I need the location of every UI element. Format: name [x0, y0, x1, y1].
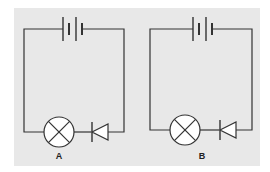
battery-icon	[193, 17, 212, 41]
circuit-a-label: A	[56, 151, 63, 161]
circuits-diagram: A B	[0, 0, 270, 172]
circuit-b-wire-right	[212, 29, 252, 130]
diode-icon	[220, 120, 236, 140]
circuit-a-wire-right	[83, 29, 124, 132]
lamp-icon	[170, 115, 200, 145]
circuit-a	[24, 17, 124, 147]
circuit-b-label: B	[199, 151, 206, 161]
diode-icon	[92, 122, 108, 142]
circuit-b	[150, 17, 252, 145]
battery-icon	[63, 17, 82, 41]
lamp-icon	[44, 117, 74, 147]
